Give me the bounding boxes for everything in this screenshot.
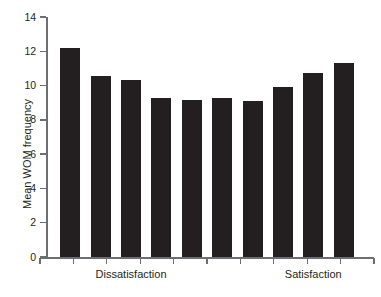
- x-axis-tick: [307, 258, 308, 264]
- y-axis-tick-label-text: 0: [12, 252, 36, 263]
- bar: [91, 76, 111, 257]
- bar: [243, 101, 263, 257]
- y-axis-tick-label: 10: [12, 80, 36, 91]
- y-axis-tick: [40, 119, 46, 120]
- y-axis-tick-label: 6: [12, 149, 36, 160]
- y-axis-tick: [40, 188, 46, 189]
- bar: [303, 73, 323, 257]
- x-axis-tick: [106, 258, 107, 264]
- y-axis-tick-label-text: 10: [12, 80, 36, 91]
- x-axis-tick: [340, 258, 341, 264]
- x-axis-tick: [373, 258, 374, 264]
- bar: [212, 98, 232, 257]
- y-axis-tick-label-text: 4: [12, 183, 36, 194]
- bar: [273, 87, 293, 257]
- y-axis-tick-label: 8: [12, 114, 36, 125]
- bar: [60, 48, 80, 257]
- y-axis-tick: [40, 222, 46, 223]
- y-axis-tick: [40, 85, 46, 86]
- x-axis-tick: [173, 258, 174, 264]
- bar: [334, 63, 354, 257]
- x-axis-tick: [140, 258, 141, 264]
- x-axis-tick: [39, 258, 40, 264]
- y-axis-line: [46, 17, 48, 258]
- y-axis-tick-label-text: 14: [12, 12, 36, 23]
- x-axis-tick: [73, 258, 74, 264]
- bar: [121, 80, 141, 257]
- y-axis-tick: [40, 153, 46, 154]
- x-axis-label-satisfaction: Satisfaction: [253, 268, 373, 280]
- bar: [151, 98, 171, 257]
- y-axis-tick: [40, 16, 46, 17]
- y-axis-tick: [40, 51, 46, 52]
- bar: [182, 100, 202, 257]
- y-axis-tick-label-text: 12: [12, 46, 36, 57]
- y-axis-tick-label: 14: [12, 12, 36, 23]
- y-axis-tick-label: 0: [12, 252, 36, 263]
- y-axis-tick-label-text: 6: [12, 149, 36, 160]
- y-axis-tick-label-text: 8: [12, 114, 36, 125]
- y-axis-tick-label: 4: [12, 183, 36, 194]
- y-axis-tick-label: 2: [12, 217, 36, 228]
- bar-chart: Mean WOM frequency 02468101214 Dissatisf…: [0, 0, 381, 297]
- y-axis-tick-label-text: 2: [12, 217, 36, 228]
- y-axis-tick-label: 12: [12, 46, 36, 57]
- x-axis-tick: [273, 258, 274, 264]
- x-axis-label-dissatisfaction: Dissatisfaction: [71, 268, 191, 280]
- x-axis-tick: [240, 258, 241, 264]
- x-axis-tick: [206, 258, 207, 264]
